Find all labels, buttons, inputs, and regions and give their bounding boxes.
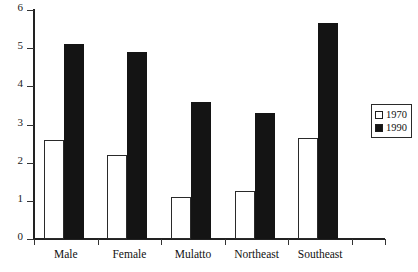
x-axis-tick <box>225 239 226 245</box>
y-axis-tick: 0 <box>27 239 34 240</box>
y-axis-tick: 1 <box>27 201 34 202</box>
y-axis-tick-mark <box>27 48 34 49</box>
y-axis-tick-label: 0 <box>18 231 24 242</box>
legend-swatch-1970-icon <box>375 111 383 119</box>
y-axis-tick-label: 4 <box>18 78 24 89</box>
bar-male-1990 <box>64 44 84 239</box>
x-axis-label-northeast: Northeast <box>225 248 289 260</box>
y-axis-tick-mark <box>27 125 34 126</box>
y-axis-tick: 4 <box>27 86 34 87</box>
bar-female-1970 <box>107 155 127 239</box>
bar-northeast-1970 <box>235 191 255 239</box>
x-axis-tick <box>288 239 289 245</box>
bar-mulatto-1970 <box>171 197 191 239</box>
chart-legend: 1970 1990 <box>371 104 412 138</box>
grouped-bar-chart: 0123456 MaleFemaleMulattoNortheastSouthe… <box>0 0 418 272</box>
legend-label-1990: 1990 <box>386 122 407 133</box>
y-axis-tick-label: 3 <box>18 117 24 128</box>
y-axis-tick-mark <box>27 163 34 164</box>
bar-northeast-1990 <box>255 113 275 239</box>
y-axis-tick-label: 5 <box>18 40 24 51</box>
y-axis-tick-mark <box>27 10 34 11</box>
y-axis-tick: 5 <box>27 48 34 49</box>
x-axis-label-mulatto: Mulatto <box>161 248 225 260</box>
x-axis-label-male: Male <box>34 248 98 260</box>
y-axis-tick-mark <box>27 201 34 202</box>
y-axis-tick-label: 6 <box>18 2 24 13</box>
y-axis-tick: 6 <box>27 10 34 11</box>
plot-area <box>34 10 352 239</box>
legend-label-1970: 1970 <box>386 109 407 120</box>
legend-swatch-1990-icon <box>375 124 383 132</box>
y-axis-tick: 2 <box>27 163 34 164</box>
bar-female-1990 <box>127 52 147 239</box>
y-axis-tick-label: 2 <box>18 155 24 166</box>
y-axis-tick-mark <box>27 86 34 87</box>
bar-southeast-1970 <box>298 138 318 239</box>
x-axis-label-female: Female <box>98 248 162 260</box>
x-axis-label-southeast: Southeast <box>288 248 352 260</box>
x-axis-tick <box>98 239 99 245</box>
x-axis-tick <box>352 239 353 245</box>
legend-item-1990: 1990 <box>375 121 407 134</box>
bar-male-1970 <box>44 140 64 239</box>
x-axis-tick <box>385 239 386 245</box>
bar-southeast-1990 <box>318 23 338 239</box>
y-axis-tick-label: 1 <box>18 193 24 204</box>
x-axis-tick <box>34 239 35 245</box>
legend-item-1970: 1970 <box>375 108 407 121</box>
bar-mulatto-1990 <box>191 102 211 239</box>
y-axis-tick: 3 <box>27 125 34 126</box>
y-axis-tick-mark <box>27 239 34 240</box>
x-axis-tick <box>161 239 162 245</box>
